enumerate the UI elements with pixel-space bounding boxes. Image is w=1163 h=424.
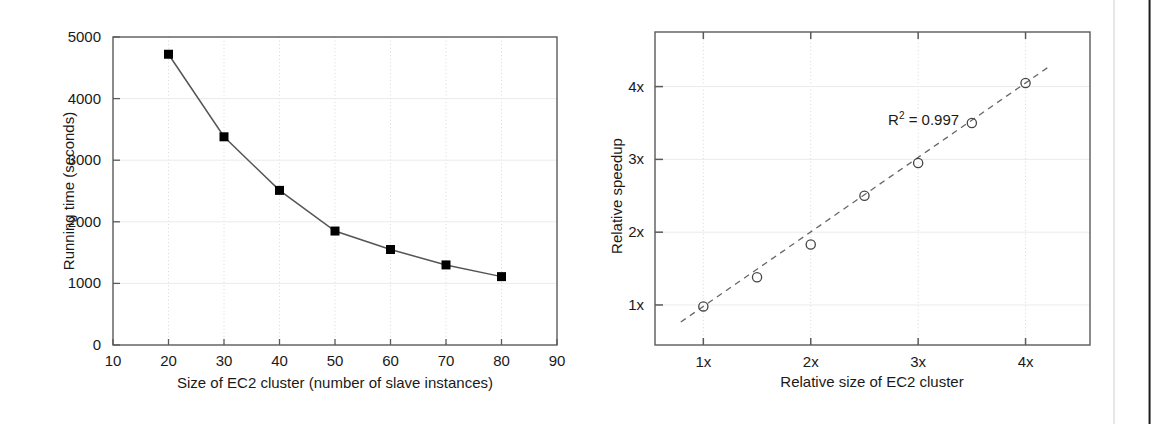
gridlines-left bbox=[113, 37, 557, 345]
y-tick-label: 2x bbox=[628, 223, 644, 240]
x-tick-label: 80 bbox=[493, 352, 510, 369]
scan-page-fold bbox=[1113, 0, 1115, 424]
r-squared-main: R bbox=[888, 111, 899, 128]
data-point-marker bbox=[164, 50, 173, 59]
data-point-marker bbox=[275, 186, 284, 195]
data-point-marker bbox=[860, 191, 869, 200]
x-axis-title-right: Relative size of EC2 cluster bbox=[780, 373, 963, 390]
chart-relative-speedup-svg: 1x2x3x4x 1x2x3x4x R2 = 0.997 Relative si… bbox=[600, 0, 1100, 424]
y-tick-label: 0 bbox=[93, 336, 101, 353]
x-tick-label: 4x bbox=[1018, 353, 1034, 370]
x-tick-label: 3x bbox=[910, 353, 926, 370]
figure-container: 102030405060708090 010002000300040005000… bbox=[0, 0, 1163, 424]
y-axis-title-right: Relative speedup bbox=[608, 138, 625, 254]
data-point-marker bbox=[752, 273, 761, 282]
r-squared-rest: = 0.997 bbox=[904, 111, 959, 128]
data-point-marker bbox=[331, 227, 340, 236]
x-tick-label: 10 bbox=[105, 352, 122, 369]
x-tick-labels-left: 102030405060708090 bbox=[105, 352, 566, 369]
x-tick-label: 2x bbox=[803, 353, 819, 370]
chart-relative-speedup: 1x2x3x4x 1x2x3x4x R2 = 0.997 Relative si… bbox=[600, 0, 1100, 424]
x-tick-label: 20 bbox=[160, 352, 177, 369]
data-point-marker bbox=[497, 272, 506, 281]
x-tick-label: 30 bbox=[216, 352, 233, 369]
y-tick-labels-right: 1x2x3x4x bbox=[628, 78, 644, 313]
axis-ticks-left bbox=[113, 37, 557, 345]
y-tick-label: 4x bbox=[628, 78, 644, 95]
x-tick-label: 40 bbox=[271, 352, 288, 369]
axis-ticks-right bbox=[655, 32, 1026, 345]
chart-running-time: 102030405060708090 010002000300040005000… bbox=[0, 0, 600, 424]
x-tick-label: 70 bbox=[438, 352, 455, 369]
x-axis-title-left: Size of EC2 cluster (number of slave ins… bbox=[177, 374, 493, 391]
x-tick-labels-right: 1x2x3x4x bbox=[695, 353, 1034, 370]
data-point-marker bbox=[386, 245, 395, 254]
scan-page-edge bbox=[1148, 0, 1151, 424]
y-tick-label: 1x bbox=[628, 296, 644, 313]
x-tick-label: 1x bbox=[695, 353, 711, 370]
y-tick-label: 5000 bbox=[68, 28, 101, 45]
y-tick-label: 3x bbox=[628, 150, 644, 167]
plot-frame-left bbox=[113, 37, 557, 345]
data-point-marker bbox=[220, 132, 229, 141]
r-squared-annotation: R2 = 0.997 bbox=[888, 110, 959, 128]
y-axis-title-left: Running time (seconds) bbox=[60, 112, 77, 270]
y-tick-label: 4000 bbox=[68, 90, 101, 107]
x-tick-label: 50 bbox=[327, 352, 344, 369]
x-tick-label: 90 bbox=[549, 352, 566, 369]
chart-running-time-svg: 102030405060708090 010002000300040005000… bbox=[0, 0, 600, 424]
trend-line-speedup bbox=[681, 67, 1048, 322]
x-tick-label: 60 bbox=[382, 352, 399, 369]
y-tick-label: 1000 bbox=[68, 274, 101, 291]
data-point-marker bbox=[442, 260, 451, 269]
